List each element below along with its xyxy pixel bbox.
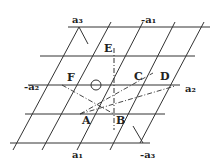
label-neg-a2: -a₂ xyxy=(24,81,39,92)
label-neg-a1: -a₁ xyxy=(141,14,156,25)
lattice-diagram: A B C D E F a₃ -a₁ -a₂ a₂ a₁ -a₃ xyxy=(0,0,222,166)
label-a1: a₁ xyxy=(72,149,83,160)
label-neg-a3: -a₃ xyxy=(140,149,155,160)
point-label-f: F xyxy=(67,71,75,84)
point-label-d: D xyxy=(160,70,170,83)
point-label-b: B xyxy=(116,114,125,127)
point-label-e: E xyxy=(104,42,112,55)
point-label-c: C xyxy=(134,70,143,83)
label-a2: a₂ xyxy=(185,83,196,94)
lattice-svg: A B C D E F a₃ -a₁ -a₂ a₂ a₁ -a₃ xyxy=(0,0,222,166)
label-a3: a₃ xyxy=(72,14,83,25)
point-label-a: A xyxy=(81,114,91,127)
